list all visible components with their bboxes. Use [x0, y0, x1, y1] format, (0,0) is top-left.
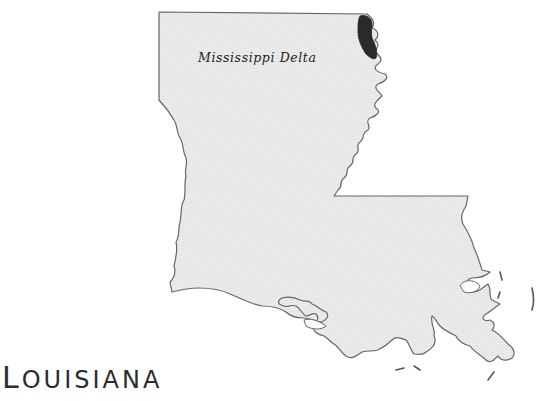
state-title-rest: OUISIANA: [22, 366, 163, 394]
state-title-initial: L: [2, 360, 22, 395]
region-label-mississippi-delta: Mississippi Delta: [198, 50, 317, 65]
state-title: LOUISIANA: [2, 360, 162, 395]
